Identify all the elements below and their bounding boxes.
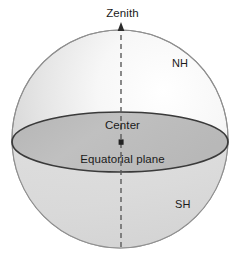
zenith-label: Zenith: [0, 8, 245, 20]
northern-hemisphere-label: NH: [172, 58, 188, 69]
center-point-marker: [119, 139, 124, 144]
celestial-sphere-diagram: Zenith NH Center Equatorial plane SH: [0, 0, 245, 264]
zenith-arrowhead-icon: [118, 22, 125, 31]
southern-hemisphere-label: SH: [175, 199, 190, 210]
equatorial-plane-label: Equatorial plane: [0, 154, 245, 166]
celestial-sphere-graphic: [0, 0, 245, 264]
center-label: Center: [0, 120, 245, 132]
